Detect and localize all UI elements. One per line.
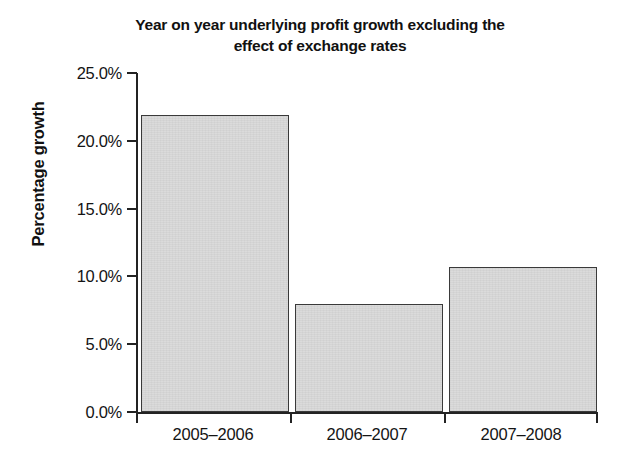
y-axis-tick: [127, 208, 137, 210]
y-axis-title: Percentage growth: [24, 44, 52, 304]
y-axis-tick-label: 25.0%: [77, 64, 122, 83]
x-axis-category-label: 2007–2008: [444, 425, 598, 444]
x-axis-tick: [290, 412, 292, 423]
y-axis-tick: [127, 275, 137, 277]
chart-title-line-2: effect of exchange rates: [60, 35, 580, 56]
x-axis-category-label: 2006–2007: [290, 425, 444, 444]
y-axis-tick: [127, 343, 137, 345]
x-axis-category-label: 2005–2006: [136, 425, 290, 444]
y-axis-tick-label: 20.0%: [77, 131, 122, 150]
y-axis-tick-label: 15.0%: [77, 199, 122, 218]
bar: [141, 115, 289, 412]
x-axis-tick: [444, 412, 446, 423]
y-axis-tick-label: 5.0%: [86, 335, 122, 354]
y-axis-title-text: Percentage growth: [29, 101, 48, 246]
chart-title: Year on year underlying profit growth ex…: [60, 14, 580, 56]
chart-title-line-1: Year on year underlying profit growth ex…: [60, 14, 580, 35]
y-axis-tick-label: 10.0%: [77, 267, 122, 286]
x-axis-tick: [596, 412, 598, 423]
plot-area: 0.0%5.0%10.0%15.0%20.0%25.0% 2005–200620…: [136, 73, 598, 412]
y-axis-tick: [127, 72, 137, 74]
y-axis-line: [136, 73, 138, 414]
x-axis-line: [136, 412, 598, 414]
y-axis-tick-label: 0.0%: [86, 403, 122, 422]
bar-chart: Year on year underlying profit growth ex…: [0, 0, 640, 459]
y-axis-tick: [127, 140, 137, 142]
bar: [295, 304, 443, 412]
x-axis-tick: [136, 412, 138, 423]
bar: [449, 267, 597, 412]
